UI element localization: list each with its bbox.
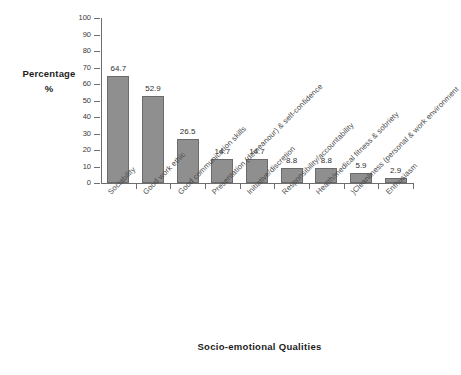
y-tick-label-70: 70 <box>51 64 91 72</box>
y-tick-label-10: 10 <box>51 163 91 171</box>
y-tick-label-90: 90 <box>51 31 91 39</box>
y-tick-label-80: 80 <box>51 47 91 55</box>
bar <box>107 76 129 183</box>
x-tick <box>240 184 241 189</box>
y-tick-label-20: 20 <box>51 146 91 154</box>
y-tick-label-50: 50 <box>51 97 91 105</box>
plot-area: 0102030405060708090100 64.752.926.514.71… <box>101 18 413 183</box>
y-axis-line <box>101 18 102 184</box>
y-tick-label-30: 30 <box>51 130 91 138</box>
y-tick-label-100: 100 <box>51 14 91 22</box>
x-tick <box>136 184 137 189</box>
x-tick <box>413 184 414 189</box>
y-tick-label-0: 0 <box>51 179 91 187</box>
x-tick <box>274 184 275 189</box>
y-tick-10 <box>94 167 100 168</box>
y-tick-label-40: 40 <box>51 113 91 121</box>
x-tick <box>170 184 171 189</box>
y-tick-20 <box>94 150 100 151</box>
x-tick <box>205 184 206 189</box>
x-tick <box>378 184 379 189</box>
y-tick-60 <box>94 84 100 85</box>
x-tick <box>344 184 345 189</box>
y-tick-100 <box>94 18 100 19</box>
bar-value-label: 26.5 <box>168 127 208 136</box>
bar-value-label: 52.9 <box>133 84 173 93</box>
x-axis-title: Socio-emotional Qualities <box>0 341 455 352</box>
y-tick-90 <box>94 35 100 36</box>
y-tick-0 <box>94 183 100 184</box>
y-tick-40 <box>94 117 100 118</box>
y-tick-label-60: 60 <box>51 80 91 88</box>
x-tick <box>309 184 310 189</box>
y-tick-50 <box>94 101 100 102</box>
y-tick-30 <box>94 134 100 135</box>
y-tick-80 <box>94 51 100 52</box>
bar-value-label: 64.7 <box>98 64 138 73</box>
